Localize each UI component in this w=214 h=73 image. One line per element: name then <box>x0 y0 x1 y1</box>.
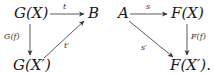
node-F-X-prime: F(X′). <box>170 58 211 73</box>
label-F-f: F(f) <box>191 33 206 41</box>
label-s: s <box>146 3 150 11</box>
label-G-f: G(f) <box>4 33 20 41</box>
label-s-prime: s′ <box>141 44 147 52</box>
label-t-prime: t′ <box>64 42 69 50</box>
node-A: A <box>118 6 129 21</box>
node-F-X: F(X) <box>171 6 204 21</box>
label-t: t <box>63 3 66 11</box>
arrow-t-prime <box>44 21 84 58</box>
node-B: B <box>88 6 99 21</box>
node-G-X: G(X) <box>14 6 48 21</box>
node-G-X-prime: G(X′) <box>13 58 51 73</box>
commutative-diagrams: G(X) B G(X′) t G(f) t′ A F(X) F(X′). s F… <box>0 0 214 73</box>
arrow-s-prime <box>129 21 173 57</box>
